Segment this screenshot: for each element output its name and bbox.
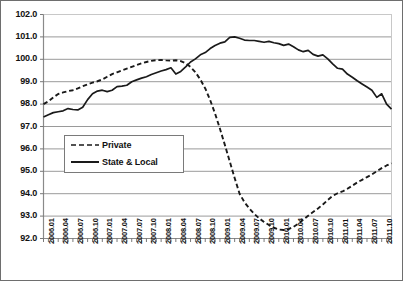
x-axis-tick-label: 2011.10 (385, 219, 394, 244)
x-axis-tick-label: 2009.01 (223, 218, 232, 244)
y-axis-tick-label: 97.0 (3, 122, 37, 131)
x-axis-tick-label: 2006.01 (47, 218, 56, 244)
y-axis-tick-label: 94.0 (3, 189, 37, 198)
legend-item-private: Private (65, 136, 183, 153)
y-axis-tick-label: 96.0 (3, 144, 37, 153)
x-axis-tick-label: 2011.01 (341, 219, 350, 244)
x-axis-tick-label: 2011.04 (355, 219, 364, 244)
y-axis-tick-label: 102.0 (3, 10, 37, 19)
x-axis-tick-label: 2007.07 (135, 218, 144, 244)
y-axis-tick-label: 98.0 (3, 99, 37, 108)
x-axis-tick-label: 2009.10 (267, 218, 276, 244)
x-axis-tick-label: 2006.04 (61, 218, 70, 244)
x-axis-tick-label: 2010.07 (311, 218, 320, 244)
y-axis-tick-label: 92.0 (3, 234, 37, 243)
x-axis-tick-label: 2009.07 (252, 218, 261, 244)
data-series (44, 37, 392, 230)
x-axis-tick-label: 2008.01 (164, 218, 173, 244)
y-axis-tick-label: 99.0 (3, 77, 37, 86)
legend-item-state-local: State & Local (65, 153, 183, 170)
x-axis-tick-label: 2008.07 (194, 218, 203, 244)
x-axis-tick-label: 2007.01 (105, 218, 114, 244)
x-axis-tick-label: 2011.07 (370, 219, 379, 244)
y-axis-tick-label: 101.0 (3, 32, 37, 41)
x-axis-tick-label: 2009.04 (238, 218, 247, 244)
x-axis-tick-label: 2010.01 (282, 218, 291, 244)
x-axis-tick-label: 2006.07 (76, 218, 85, 244)
y-axis-tick-label: 95.0 (3, 166, 37, 175)
x-axis-tick-label: 2007.04 (120, 218, 129, 244)
x-axis-tick-label: 2010.10 (326, 218, 335, 244)
x-axis-tick-label: 2008.04 (179, 218, 188, 244)
y-axis-tick-label: 93.0 (3, 211, 37, 220)
x-axis-tick-label: 2010.04 (296, 218, 305, 244)
x-axis-tick-label: 2008.10 (208, 218, 217, 244)
legend-swatch-solid (70, 157, 100, 167)
legend-label-state-local: State & Local (102, 157, 158, 167)
chart-figure: 102.0101.0100.099.098.097.096.095.094.09… (0, 0, 403, 281)
legend-swatch-dashed (70, 140, 100, 150)
y-axis-tick-label: 100.0 (3, 54, 37, 63)
x-axis-tick-label: 2006.10 (91, 218, 100, 244)
x-axis-tick-label: 2007.10 (149, 218, 158, 244)
chart-legend: Private State & Local (64, 135, 184, 173)
series-line-state-local (44, 37, 392, 117)
x-axis-ticks (40, 15, 392, 243)
legend-label-private: Private (102, 140, 131, 150)
